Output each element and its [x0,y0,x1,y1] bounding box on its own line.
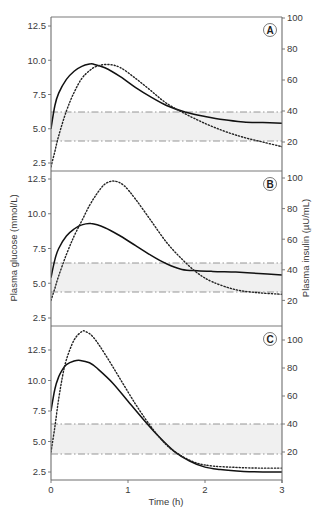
y-left-tick-label: 5.0 [33,278,46,289]
y-right-tick-label: 100 [287,172,303,183]
panel-c: 2.55.07.510.012.520406080100C [28,326,303,477]
y-left-tick-label: 12.5 [28,173,47,184]
y-right-tick-label: 20 [287,136,298,147]
y-right-tick-label: 100 [287,334,303,345]
y-left-tick-label: 10.0 [28,55,47,66]
panels: 2.55.07.510.012.520406080100A2.55.07.510… [28,12,303,477]
x-tick-label: 0 [48,484,53,495]
normal-range-band [51,424,282,454]
x-axis-title: Time (h) [148,496,183,507]
y-right-tick-label: 80 [287,362,298,373]
y-right-tick-label: 40 [287,264,298,275]
y-right-tick-label: 20 [287,295,298,306]
x-tick-label: 3 [279,484,284,495]
y-right-tick-label: 80 [287,203,298,214]
y-right-tick-label: 40 [287,418,298,429]
chart-canvas: 2.55.07.510.012.520406080100A2.55.07.510… [0,0,321,520]
y-right-tick-label: 60 [287,390,298,401]
glucose-insulin-chart: 2.55.07.510.012.520406080100A2.55.07.510… [0,0,321,520]
panel-label: C [266,334,273,345]
panel-b: 2.55.07.510.012.520406080100B [28,171,303,323]
y-right-tick-label: 60 [287,234,298,245]
y-left-tick-label: 2.5 [33,312,46,323]
y-left-tick-label: 5.0 [33,436,46,447]
x-tick-label: 2 [202,484,207,495]
y-left-tick-label: 2.5 [33,466,46,477]
normal-range-band [51,263,282,292]
y-right-tick-label: 60 [287,74,298,85]
y-left-tick-label: 7.5 [33,405,46,416]
panel-label: A [266,25,273,36]
normal-range-band [51,112,282,141]
y-left-tick-label: 5.0 [33,123,46,134]
y-left-tick-label: 12.5 [28,344,47,355]
y-right-tick-label: 100 [287,12,303,23]
y-right-tick-label: 80 [287,43,298,54]
x-tick-label: 1 [125,484,130,495]
panel-a: 2.55.07.510.012.520406080100A [28,12,303,168]
y-axis-left-title: Plasma glucose (mmol/L) [8,194,19,301]
glucose-line [51,360,282,472]
y-left-tick-label: 10.0 [28,375,47,386]
y-left-tick-label: 2.5 [33,157,46,168]
y-left-tick-label: 7.5 [33,89,46,100]
y-left-tick-label: 12.5 [28,20,47,31]
y-right-tick-label: 20 [287,446,298,457]
axes: 0123 [48,17,284,495]
y-left-tick-label: 10.0 [28,208,47,219]
y-right-tick-label: 40 [287,105,298,116]
panel-label: B [266,179,273,190]
y-axis-right-title: Plasma insulin (µU/mL) [300,199,311,297]
y-left-tick-label: 7.5 [33,243,46,254]
